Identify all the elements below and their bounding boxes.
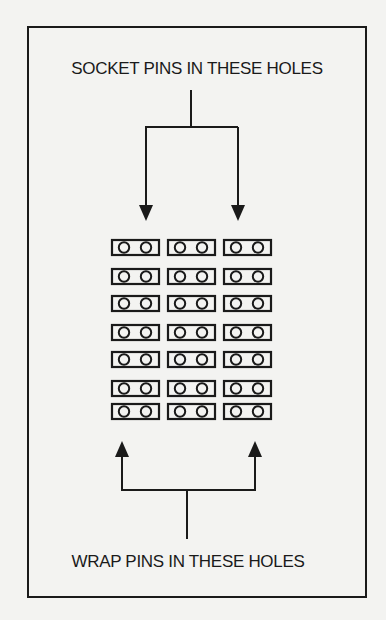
pin-hole-icon: [253, 242, 263, 252]
pin-hole-icon: [231, 327, 241, 337]
arrow-up-icon: [115, 441, 129, 457]
pin-hole-icon: [197, 327, 207, 337]
pin-block: [224, 296, 271, 311]
pin-block: [168, 325, 215, 340]
pin-block: [224, 269, 271, 284]
pin-block: [224, 404, 271, 419]
pin-hole-icon: [231, 354, 241, 364]
pin-block: [168, 404, 215, 419]
pin-hole-icon: [119, 354, 129, 364]
pin-hole-icon: [141, 242, 151, 252]
pin-hole-icon: [141, 327, 151, 337]
pin-hole-icon: [175, 298, 185, 308]
pin-block-grid: [112, 240, 271, 419]
pin-block: [112, 296, 159, 311]
pin-hole-icon: [119, 406, 129, 416]
pin-hole-icon: [253, 298, 263, 308]
pin-hole-icon: [175, 383, 185, 393]
pin-hole-icon: [253, 271, 263, 281]
pin-hole-icon: [119, 242, 129, 252]
pin-hole-icon: [197, 298, 207, 308]
pin-block: [112, 240, 159, 255]
pin-hole-icon: [119, 327, 129, 337]
pin-hole-icon: [119, 383, 129, 393]
pin-hole-icon: [253, 406, 263, 416]
socket-pins-arrows: [145, 90, 238, 208]
arrow-down-icon: [231, 205, 245, 221]
pin-block: [112, 352, 159, 367]
pin-block: [168, 240, 215, 255]
pin-block: [224, 325, 271, 340]
pin-hole-icon: [141, 383, 151, 393]
pin-block: [168, 352, 215, 367]
pin-block: [112, 404, 159, 419]
pin-hole-icon: [231, 383, 241, 393]
pin-hole-icon: [253, 383, 263, 393]
pin-hole-icon: [197, 354, 207, 364]
pin-hole-icon: [141, 354, 151, 364]
pin-block: [112, 269, 159, 284]
pin-block: [168, 381, 215, 396]
pin-hole-icon: [175, 242, 185, 252]
arrow-up-icon: [248, 441, 262, 457]
pin-hole-icon: [175, 327, 185, 337]
pin-block: [224, 240, 271, 255]
pin-hole-icon: [175, 271, 185, 281]
pin-diagram: [0, 0, 386, 620]
pin-hole-icon: [119, 298, 129, 308]
pin-hole-icon: [197, 383, 207, 393]
pin-block: [224, 352, 271, 367]
pin-hole-icon: [253, 354, 263, 364]
pin-hole-icon: [175, 354, 185, 364]
pin-hole-icon: [175, 406, 185, 416]
arrow-down-icon: [139, 205, 153, 221]
pin-hole-icon: [231, 406, 241, 416]
pin-hole-icon: [197, 406, 207, 416]
wrap-pins-label: WRAP PINS IN THESE HOLES: [30, 552, 346, 572]
pin-block: [168, 269, 215, 284]
pin-hole-icon: [197, 271, 207, 281]
pin-block: [224, 381, 271, 396]
pin-block: [112, 381, 159, 396]
wrap-pins-arrows: [121, 455, 256, 539]
pin-hole-icon: [253, 327, 263, 337]
pin-hole-icon: [141, 298, 151, 308]
pin-hole-icon: [231, 242, 241, 252]
pin-hole-icon: [141, 271, 151, 281]
pin-hole-icon: [231, 298, 241, 308]
pin-hole-icon: [231, 271, 241, 281]
pin-hole-icon: [119, 271, 129, 281]
pin-hole-icon: [141, 406, 151, 416]
pin-block: [168, 296, 215, 311]
pin-hole-icon: [197, 242, 207, 252]
pin-block: [112, 325, 159, 340]
